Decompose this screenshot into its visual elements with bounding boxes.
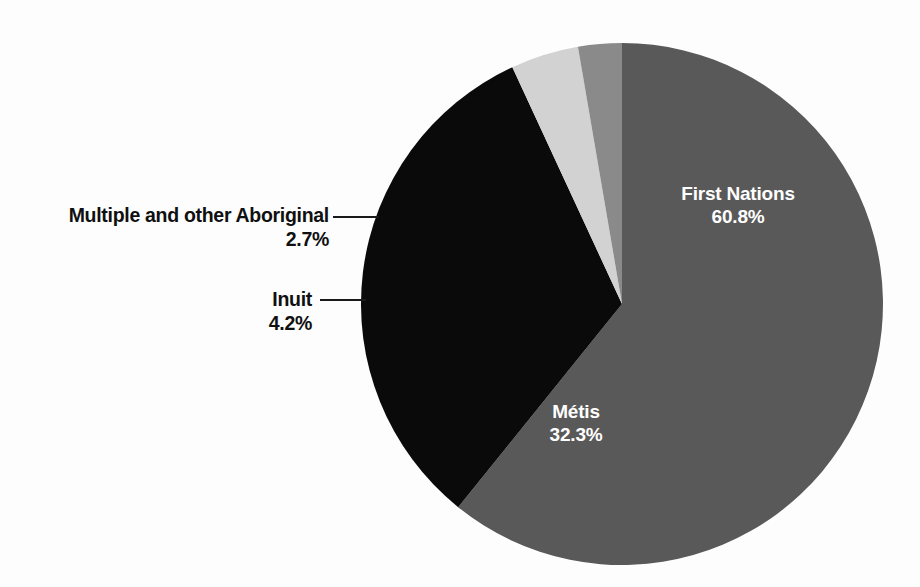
pie-label-inuit-value: 4.2% (34, 311, 312, 335)
pie-label-inuit: Inuit 4.2% (34, 287, 312, 336)
leader-line-multiple-and-other-aboriginal (333, 216, 379, 218)
pie-label-multiple-and-other-aboriginal-value: 2.7% (34, 227, 329, 251)
leader-line-inuit (320, 299, 366, 301)
pie-slices (361, 43, 883, 565)
pie-label-multiple-and-other-aboriginal: Multiple and other Aboriginal 2.7% (34, 203, 329, 252)
pie-chart-figure: First Nations 60.8% Métis 32.3% Multiple… (0, 0, 920, 587)
pie-label-multiple-and-other-aboriginal-name: Multiple and other Aboriginal (34, 203, 329, 227)
pie-label-inuit-name: Inuit (34, 287, 312, 311)
